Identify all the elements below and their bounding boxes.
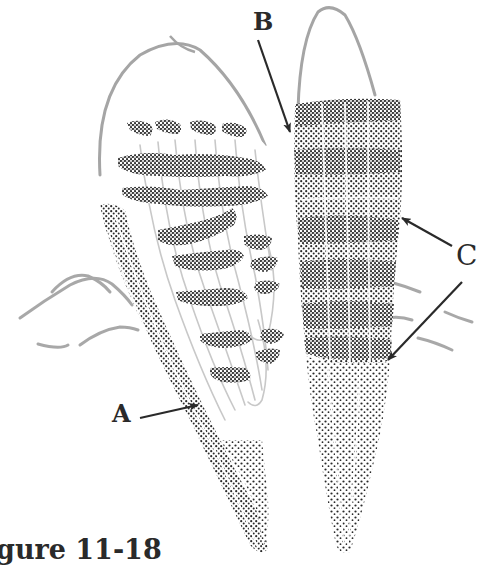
down-wisps-left: [20, 275, 138, 347]
arrow-c-upper: [402, 218, 452, 246]
arrow-b: [258, 40, 290, 132]
label-b: B: [253, 10, 273, 34]
right-feather: [294, 8, 402, 553]
label-c: C: [456, 242, 477, 270]
feather-illustration: [0, 0, 491, 567]
left-feather: [100, 36, 288, 552]
feather-figure: A B C gure 11-18: [0, 0, 491, 567]
label-a: A: [112, 402, 131, 426]
figure-caption: gure 11-18: [0, 536, 162, 563]
